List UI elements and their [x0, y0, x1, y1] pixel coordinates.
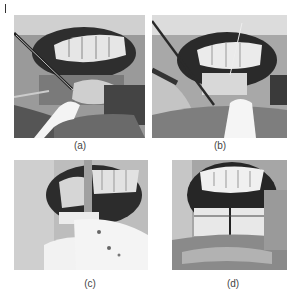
figure-panel-b — [152, 15, 287, 138]
panel-label-a: (a) — [60, 140, 100, 151]
surgical-photo-a — [14, 15, 145, 138]
figure-panel-d — [172, 160, 287, 270]
panel-label-d: (d) — [213, 278, 253, 289]
page-margin-mark — [5, 4, 6, 13]
figure-panel-a — [14, 15, 145, 138]
surgical-photo-d — [172, 160, 287, 270]
figure-panel-c — [14, 160, 148, 270]
panel-label-c: (c) — [70, 278, 110, 289]
panel-label-b: (b) — [200, 140, 240, 151]
surgical-photo-b — [152, 15, 287, 138]
surgical-photo-c — [14, 160, 148, 270]
